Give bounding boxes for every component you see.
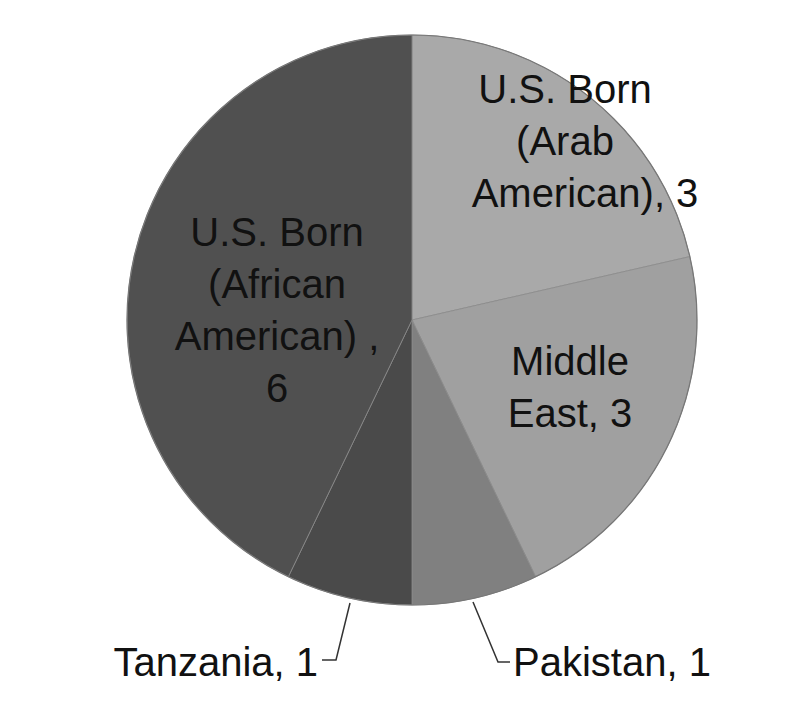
svg-text:U.S. Born: U.S. Born	[478, 67, 651, 111]
label-tanzania: Tanzania, 1	[113, 640, 318, 684]
svg-text:U.S. Born: U.S. Born	[190, 210, 363, 254]
svg-text:Middle: Middle	[511, 339, 629, 383]
pakistan-leader-line	[473, 602, 510, 662]
label-pakistan: Pakistan, 1	[513, 640, 711, 684]
tanzania-leader-line	[322, 603, 350, 660]
svg-text:(Arab: (Arab	[516, 119, 614, 163]
svg-text:6: 6	[266, 366, 288, 410]
svg-text:(African: (African	[208, 262, 346, 306]
pie-chart: U.S. Born (Arab American), 3 Middle East…	[0, 0, 803, 706]
svg-text:American) ,: American) ,	[175, 314, 380, 358]
svg-text:American), 3: American), 3	[472, 171, 699, 215]
svg-text:East, 3: East, 3	[508, 391, 633, 435]
